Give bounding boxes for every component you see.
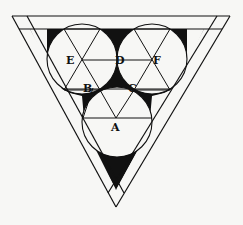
label-f: F [153,54,161,67]
triangle-circles-diagram: E D F B C A [0,0,243,225]
label-a: A [110,121,120,134]
label-b: B [83,82,92,95]
label-e: E [66,54,74,67]
label-c: C [128,82,137,95]
label-d: D [115,54,125,67]
